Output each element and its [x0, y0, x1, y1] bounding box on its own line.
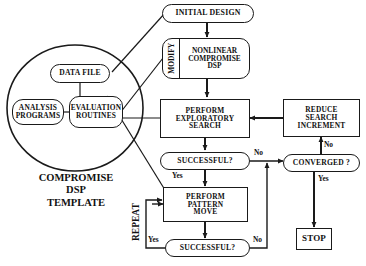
node-converged-label: CONVERGED ?	[293, 159, 350, 167]
node-successful-1-label: SUCCESSFUL?	[177, 157, 232, 165]
compromise-dsp-template-caption: COMPROMISE DSP TEMPLATE	[10, 172, 142, 209]
node-successful-2-label: SUCCESSFUL?	[180, 244, 235, 252]
node-perform-exploratory-search[interactable]: PERFORM EXPLORATORY SEARCH	[160, 99, 250, 138]
label-no-converged: No	[324, 140, 333, 149]
reduce-line3: INCREMENT	[298, 121, 346, 130]
exploratory-line3: SEARCH	[189, 121, 221, 130]
node-successful-1[interactable]: SUCCESSFUL?	[160, 152, 250, 170]
node-reduce-search-increment[interactable]: REDUCE SEARCH INCREMENT	[283, 99, 360, 137]
node-initial-design[interactable]: INITIAL DESIGN	[162, 4, 254, 23]
label-yes-converged: Yes	[318, 174, 329, 183]
node-evaluation-routines[interactable]: EVALUATION ROUTINES	[69, 96, 123, 128]
node-data-file[interactable]: DATA FILE	[50, 64, 110, 83]
node-data-file-label: DATA FILE	[59, 69, 100, 77]
label-yes-successful2: Yes	[148, 235, 159, 244]
node-stop-label: STOP	[302, 234, 326, 244]
node-perform-pattern-move[interactable]: PERFORM PATTERN MOVE	[163, 187, 248, 222]
node-nonlinear-body: NONLINEAR COMPROMISE DSP	[180, 39, 249, 78]
label-no-successful1: No	[254, 148, 263, 157]
flowchart-canvas: DATA FILE ANALYSIS PROGRAMS EVALUATION R…	[0, 0, 366, 266]
node-stop[interactable]: STOP	[296, 228, 332, 250]
node-modify[interactable]: MODIFY	[163, 39, 180, 78]
node-initial-design-label: INITIAL DESIGN	[176, 9, 241, 17]
node-analysis-programs-line2: PROGRAMS	[16, 111, 61, 120]
node-analysis-programs[interactable]: ANALYSIS PROGRAMS	[12, 99, 64, 125]
caption-line-3: TEMPLATE	[10, 197, 142, 209]
node-converged[interactable]: CONVERGED ?	[283, 154, 360, 172]
caption-line-2: DSP	[10, 184, 142, 196]
pattern-line3: MOVE	[194, 207, 218, 216]
nonlinear-line3: DSP	[208, 61, 222, 70]
edge-template-initial-design	[112, 13, 165, 72]
node-modify-label: MODIFY	[167, 43, 176, 74]
label-yes-successful1: Yes	[172, 171, 183, 180]
node-nonlinear-compromise-dsp[interactable]: MODIFY NONLINEAR COMPROMISE DSP	[162, 38, 250, 79]
node-evaluation-routines-line2: ROUTINES	[76, 111, 116, 120]
caption-line-1: COMPROMISE	[10, 172, 142, 184]
label-no-successful2: No	[253, 235, 262, 244]
node-successful-2[interactable]: SUCCESSFUL?	[165, 239, 250, 257]
label-repeat: REPEAT	[131, 198, 141, 246]
